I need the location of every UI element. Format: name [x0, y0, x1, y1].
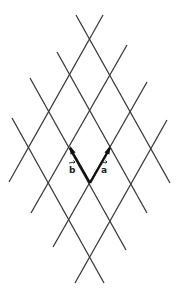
lattice-diagram: a b [0, 0, 180, 294]
lattice-lines-a [9, 15, 167, 283]
vector-a-arrowhead-icon [105, 146, 111, 155]
vector-b-arrowhead-icon [70, 146, 76, 155]
lattice-line-b-2 [57, 52, 147, 213]
lattice-lines-b [12, 15, 170, 283]
label-b-text: b [69, 165, 76, 175]
lattice-line-a-0 [75, 120, 167, 283]
label-a: a [101, 161, 107, 176]
lattice-line-b-3 [76, 15, 170, 183]
lattice-line-b-0 [12, 118, 104, 283]
label-b: b [69, 161, 76, 176]
label-a-text: a [101, 165, 107, 175]
lattice-line-a-3 [9, 15, 103, 182]
lattice-line-a-2 [31, 45, 127, 213]
